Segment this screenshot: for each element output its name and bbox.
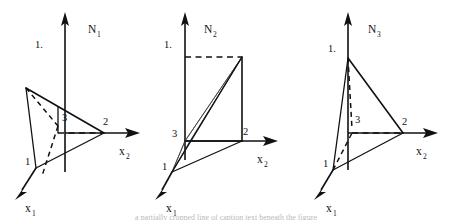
n3-riser-node1 xyxy=(333,58,348,170)
panel-shape-function-n1: N 1 x 2 x 1 1. 1 2 3 xyxy=(0,0,152,220)
n1-tick-label-one: 1. xyxy=(35,39,43,50)
n1-vertical-axis-subscript: 1 xyxy=(97,30,101,39)
n1-depth-axis-line xyxy=(22,168,36,190)
panel-shape-function-n2: N 2 x 2 x 1 1. 1 2 3 xyxy=(150,0,302,220)
n1-node-label-3: 3 xyxy=(62,112,67,123)
figure-root: N 1 x 2 x 1 1. 1 2 3 N 2 xyxy=(0,0,452,220)
n1-horizontal-axis-label: x xyxy=(119,145,125,157)
n3-vertical-axis-label: N xyxy=(368,23,377,35)
n2-vertical-axis-subscript: 2 xyxy=(213,30,217,39)
n2-horizontal-axis-subscript: 2 xyxy=(264,160,268,169)
cropped-caption-text: a partially cropped line of caption text… xyxy=(0,213,452,220)
n1-vertical-axis-label: N xyxy=(88,23,97,35)
n2-depth-axis-line xyxy=(162,172,172,190)
n2-vertical-axis-label: N xyxy=(204,23,213,35)
n1-hidden-riser-node3 xyxy=(42,126,58,176)
n2-node-label-1: 1 xyxy=(162,161,167,172)
n3-tick-label-one: 1. xyxy=(328,43,336,54)
n3-node-label-2: 2 xyxy=(402,116,407,127)
n2-tick-label-one: 1. xyxy=(164,39,172,50)
n1-horizontal-axis-subscript: 2 xyxy=(126,152,130,161)
n3-vertical-axis-subscript: 3 xyxy=(377,30,381,39)
n3-depth-axis-arrowhead xyxy=(314,187,326,200)
n1-depth-axis-arrowhead xyxy=(15,187,27,200)
n2-depth-axis-arrowhead xyxy=(155,187,167,200)
panel-shape-function-n3: N 3 x 2 x 1 1. 1 2 3 xyxy=(300,0,452,220)
n3-node-label-3: 3 xyxy=(355,114,360,125)
n3-depth-axis-line xyxy=(321,170,333,190)
n2-plane-edge-1-peak xyxy=(172,57,242,172)
n2-node-label-3: 3 xyxy=(172,128,177,139)
n3-node-label-1: 1 xyxy=(323,158,328,169)
n3-horizontal-axis-label: x xyxy=(416,145,422,157)
n3-base-edge-1-2 xyxy=(333,133,403,170)
n3-horizontal-axis-subscript: 2 xyxy=(423,152,427,161)
n2-base-edge-1-2 xyxy=(172,141,242,172)
n2-node-label-2: 2 xyxy=(243,126,248,137)
n2-horizontal-axis-label: x xyxy=(257,153,263,165)
n1-plane-edge-apex-3-hidden xyxy=(26,88,58,126)
n1-node-label-1: 1 xyxy=(25,156,30,167)
n1-node-label-2: 2 xyxy=(103,116,108,127)
